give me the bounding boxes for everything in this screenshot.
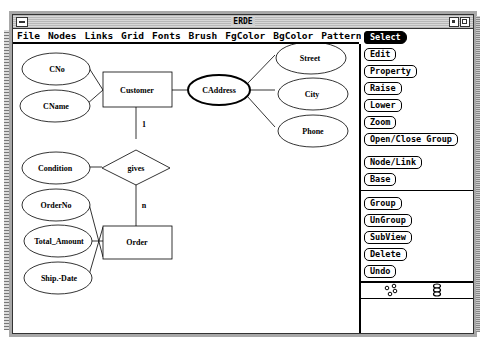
cardinality-customer-gives: 1 — [142, 120, 146, 129]
attr-street-label: Street — [300, 54, 321, 63]
select-button[interactable]: Select — [364, 31, 407, 44]
raise-button[interactable]: Raise — [364, 82, 402, 95]
palette-divider — [361, 281, 473, 283]
menu-bar: File Nodes Links Grid Fonts Brush FgColo… — [13, 29, 359, 44]
window-title: ERDE — [231, 17, 254, 26]
relationship-gives-label: gives — [128, 164, 145, 173]
entity-order-label: Order — [126, 238, 148, 247]
minimize-icon[interactable] — [449, 17, 459, 27]
diagram-canvas[interactable]: Customer Order gives CNo CName CAddress … — [13, 44, 361, 333]
ungroup-button[interactable]: UnGroup — [364, 214, 412, 227]
zoom-button[interactable]: Zoom — [364, 116, 396, 129]
edit-button[interactable]: Edit — [364, 48, 396, 61]
attr-condition-label: Condition — [38, 164, 73, 173]
menu-links[interactable]: Links — [81, 29, 118, 42]
attr-phone-label: Phone — [302, 127, 324, 136]
open-close-group-button[interactable]: Open/Close Group — [364, 133, 458, 146]
palette-divider — [361, 298, 473, 299]
attr-cname-label: CName — [43, 102, 69, 111]
delete-button[interactable]: Delete — [364, 248, 407, 261]
attr-orderno-label: OrderNo — [40, 201, 71, 210]
base-button[interactable]: Base — [364, 173, 396, 186]
property-button[interactable]: Property — [364, 65, 417, 78]
menu-brush[interactable]: Brush — [185, 29, 222, 42]
tool-palette: Select Edit Property Raise Lower Zoom Op… — [361, 29, 473, 333]
maximize-icon[interactable] — [460, 17, 470, 27]
palette-divider — [361, 190, 473, 191]
entity-customer-label: Customer — [120, 86, 154, 95]
cardinality-gives-order: n — [142, 201, 147, 210]
window-right-border — [476, 16, 480, 332]
erde-window: ERDE File Nodes Links Grid Fonts Brush F… — [12, 14, 474, 334]
menu-fonts[interactable]: Fonts — [148, 29, 185, 42]
menu-file[interactable]: File — [13, 29, 44, 42]
node-link-button[interactable]: Node/Link — [364, 156, 422, 169]
attr-ship-date-label: Ship.-Date — [41, 274, 78, 283]
title-bar[interactable]: ERDE — [13, 15, 473, 29]
stack-nodes-icon[interactable] — [431, 283, 443, 297]
menu-grid[interactable]: Grid — [117, 29, 148, 42]
left-border — [4, 30, 10, 330]
er-diagram: Customer Order gives CNo CName CAddress … — [13, 44, 359, 333]
menu-bgcolor[interactable]: BgColor — [269, 29, 317, 42]
lower-button[interactable]: Lower — [364, 99, 402, 112]
attr-caddress-label: CAddress — [202, 86, 236, 95]
undo-button[interactable]: Undo — [364, 265, 396, 278]
menu-fgcolor[interactable]: FgColor — [221, 29, 269, 42]
attr-cno-label: CNo — [49, 65, 65, 74]
scatter-nodes-icon[interactable] — [383, 283, 399, 297]
attr-total-amount-label: Total_Amount — [34, 237, 84, 246]
attr-city-label: City — [305, 90, 320, 99]
subview-button[interactable]: SubView — [364, 231, 412, 244]
menu-pattern[interactable]: Pattern — [317, 29, 365, 42]
menu-nodes[interactable]: Nodes — [44, 29, 81, 42]
group-button[interactable]: Group — [364, 197, 402, 210]
